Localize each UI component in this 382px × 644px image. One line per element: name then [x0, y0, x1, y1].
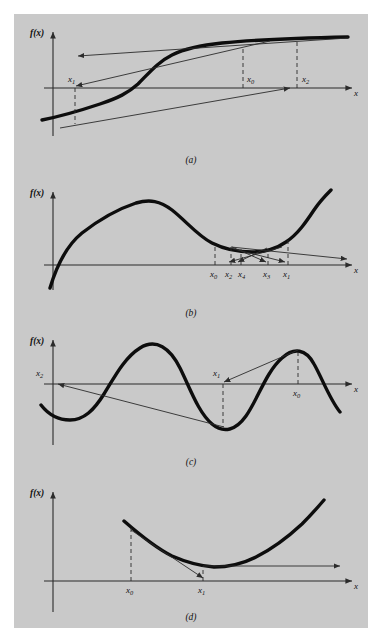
panel-b-x-axis-label: x	[353, 265, 358, 275]
panel-a-arrow-3	[60, 88, 290, 128]
panel-d-tangent-arrow	[131, 530, 203, 578]
panel-b-label-x0: x0	[209, 269, 218, 280]
panel-c-caption: (c)	[186, 457, 197, 468]
panel-b-label-x2: x2	[224, 269, 233, 280]
panel-c: f(x) x x2 x1 x0 (c)	[30, 336, 358, 468]
figure-svg: f(x) x x1 x0 x2 (a) f(x) x x0 x2	[0, 0, 382, 644]
panel-d-label-x0: x0	[125, 585, 134, 596]
panel-a-y-axis-label: f(x)	[30, 28, 44, 39]
panel-a-arrow-2	[76, 41, 270, 86]
panel-c-curve	[41, 344, 340, 429]
panel-d-label-x1: x1	[197, 585, 205, 596]
panel-a-label-x1: x1	[67, 74, 75, 85]
panel-b: f(x) x x0 x2 x4 x3 x1 (b)	[30, 188, 358, 319]
panel-a-arrow-1	[78, 38, 348, 56]
panel-d-x-axis-label: x	[353, 581, 358, 591]
figure-root: f(x) x x1 x0 x2 (a) f(x) x x0 x2	[0, 0, 382, 644]
panel-a: f(x) x x1 x0 x2 (a)	[30, 28, 358, 166]
panel-d-caption: (d)	[185, 612, 196, 623]
panel-b-label-x3: x3	[262, 269, 270, 280]
panel-b-caption: (b)	[185, 308, 196, 319]
panel-b-label-x1: x1	[282, 269, 290, 280]
panel-d: f(x) x x0 x1 (d)	[30, 488, 358, 623]
panel-b-y-axis-label: f(x)	[30, 188, 44, 199]
panel-c-label-x0: x0	[292, 388, 301, 399]
panel-c-x-axis-label: x	[353, 384, 358, 394]
panel-c-arrow-x0-x1	[224, 350, 298, 382]
panel-c-y-axis-label: f(x)	[30, 336, 44, 347]
panel-a-label-x2: x2	[301, 74, 310, 85]
panel-b-label-x4: x4	[237, 269, 246, 280]
panel-a-label-x0: x0	[246, 74, 255, 85]
panel-a-caption: (a)	[185, 155, 196, 166]
panel-d-curve	[124, 500, 324, 567]
panel-c-label-x1: x1	[212, 368, 220, 379]
panel-c-label-x2: x2	[35, 368, 44, 379]
panel-a-x-axis-label: x	[353, 88, 358, 98]
panel-d-y-axis-label: f(x)	[30, 488, 44, 499]
